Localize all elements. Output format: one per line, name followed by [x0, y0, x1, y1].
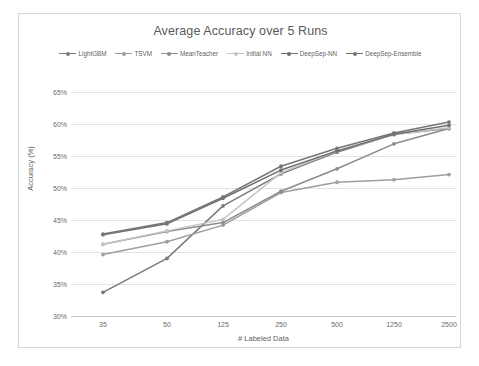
y-axis-tick-label: 40% — [27, 249, 67, 256]
x-axis-tick-label: 125 — [217, 321, 229, 328]
data-point — [165, 257, 169, 261]
data-point — [165, 229, 169, 233]
data-point — [221, 217, 225, 221]
legend-item-label: MeanTeacher — [179, 50, 218, 57]
y-axis-title-wrapper: Accuracy (%) — [19, 14, 20, 15]
data-point — [335, 146, 339, 150]
x-axis-tick-label: 50 — [163, 321, 171, 328]
x-axis-tick-label: 2500 — [441, 321, 457, 328]
series-line — [103, 175, 449, 255]
data-point — [101, 253, 105, 257]
legend-item-label: DeepSep-NN — [299, 50, 337, 57]
data-point — [165, 221, 169, 225]
x-axis-tick-label: 1250 — [386, 321, 402, 328]
data-point — [221, 204, 225, 208]
series-meanteacher — [101, 127, 451, 247]
data-point — [392, 131, 396, 135]
data-point — [392, 142, 396, 146]
chart-title: Average Accuracy over 5 Runs — [19, 24, 461, 38]
plot-area — [71, 92, 456, 316]
series-line — [103, 128, 449, 244]
data-point — [101, 290, 105, 294]
legend-item-tsvm[interactable]: TSVM — [115, 50, 152, 57]
series-line — [103, 128, 449, 292]
series-line — [103, 122, 449, 234]
series-tsvm — [101, 173, 451, 257]
data-point — [279, 189, 283, 193]
data-point — [101, 242, 105, 246]
series-deepsep-ensemble — [101, 120, 451, 236]
chart-legend: LightGBMTSVMMeanTeacherInitial NNDeepSep… — [19, 50, 461, 57]
legend-item-deepsep-ensemble[interactable]: DeepSep-Ensemble — [346, 50, 421, 57]
legend-swatch-icon — [115, 50, 132, 57]
x-axis-title: # Labeled Data — [71, 334, 456, 343]
data-point — [392, 178, 396, 182]
x-axis-tick-label: 35 — [99, 321, 107, 328]
legend-item-deepsep-nn[interactable]: DeepSep-NN — [281, 50, 337, 57]
legend-swatch-icon — [59, 50, 76, 57]
data-point — [279, 168, 283, 172]
legend-item-initial-nn[interactable]: Initial NN — [227, 50, 272, 57]
x-axis-tick-labels: 355012525050012502500 — [71, 321, 456, 333]
chart-container: Average Accuracy over 5 Runs LightGBMTSV… — [18, 13, 461, 348]
data-point — [279, 164, 283, 168]
data-point — [335, 180, 339, 184]
data-point — [447, 173, 451, 177]
y-axis-tick-label: 30% — [27, 313, 67, 320]
x-axis-tick-label: 500 — [331, 321, 343, 328]
series-initial-nn — [101, 126, 451, 246]
data-point — [101, 232, 105, 236]
y-axis-title: Accuracy (%) — [26, 114, 35, 224]
series-line — [103, 128, 449, 244]
x-axis-line — [71, 316, 456, 317]
legend-swatch-icon — [161, 50, 178, 57]
series-lightgbm — [101, 127, 451, 295]
data-point — [447, 120, 451, 124]
y-axis-tick-label: 35% — [27, 281, 67, 288]
legend-swatch-icon — [281, 50, 298, 57]
legend-item-label: DeepSep-Ensemble — [364, 50, 421, 57]
legend-item-meanteacher[interactable]: MeanTeacher — [161, 50, 218, 57]
y-axis-tick-label: 65% — [27, 89, 67, 96]
legend-item-label: LightGBM — [77, 50, 106, 57]
data-point — [165, 240, 169, 244]
series-lines — [71, 92, 456, 316]
legend-swatch-icon — [346, 50, 363, 57]
data-point — [221, 195, 225, 199]
legend-item-label: TSVM — [133, 50, 152, 57]
data-point — [335, 167, 339, 171]
legend-item-label: Initial NN — [245, 50, 272, 57]
legend-item-lightgbm[interactable]: LightGBM — [59, 50, 106, 57]
legend-swatch-icon — [227, 50, 244, 57]
x-axis-tick-label: 250 — [275, 321, 287, 328]
